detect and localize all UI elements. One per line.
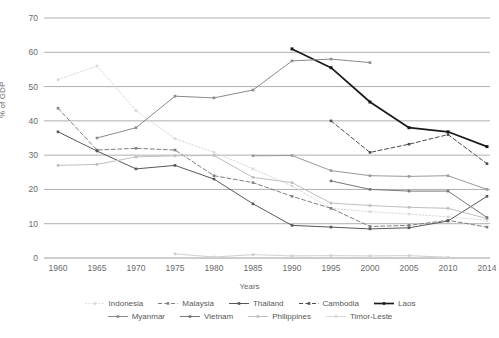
legend-label: Myanmar bbox=[132, 312, 165, 321]
data-point bbox=[486, 226, 489, 229]
x-axis-title: Years bbox=[0, 282, 499, 291]
legend-swatch-icon bbox=[107, 312, 129, 321]
legend-item-vietnam[interactable]: Vietnam bbox=[179, 312, 233, 321]
data-point bbox=[252, 155, 255, 158]
series-canvas bbox=[44, 18, 490, 258]
series-line bbox=[97, 59, 370, 138]
y-axis-tick-label: 10 bbox=[12, 220, 38, 229]
x-axis-tick-label: 2005 bbox=[389, 264, 429, 273]
data-point bbox=[174, 137, 177, 140]
series-myanmar-series bbox=[252, 154, 489, 191]
x-axis-tick-label: 1985 bbox=[233, 264, 273, 273]
data-point bbox=[369, 188, 372, 191]
data-point bbox=[486, 145, 489, 148]
data-point bbox=[447, 130, 450, 133]
series-line bbox=[58, 66, 487, 220]
data-point bbox=[369, 225, 372, 228]
data-point bbox=[447, 216, 450, 219]
x-axis-tick-label: 1995 bbox=[311, 264, 351, 273]
y-axis-tick-label: 0 bbox=[12, 254, 38, 263]
data-point bbox=[213, 174, 216, 177]
data-point bbox=[252, 181, 255, 184]
data-point bbox=[135, 126, 138, 129]
data-point bbox=[369, 61, 372, 64]
data-point bbox=[174, 149, 177, 152]
x-axis-tick-label: 2000 bbox=[350, 264, 390, 273]
legend-label: Cambodia bbox=[323, 299, 359, 308]
series-indonesia bbox=[57, 65, 489, 222]
data-point bbox=[447, 174, 450, 177]
series-line bbox=[58, 108, 487, 227]
legend-swatch-icon bbox=[228, 299, 250, 308]
data-point bbox=[408, 143, 411, 146]
data-point bbox=[252, 203, 255, 206]
series-malaysia bbox=[57, 107, 489, 229]
data-point bbox=[408, 190, 411, 193]
data-point bbox=[330, 207, 333, 210]
data-point bbox=[213, 256, 216, 259]
y-axis-title: % of GDP bbox=[0, 8, 7, 118]
data-point bbox=[135, 168, 138, 171]
legend-label: Thailand bbox=[253, 299, 284, 308]
series-laos bbox=[291, 47, 489, 148]
legend-item-myanmar[interactable]: Myanmar bbox=[107, 312, 165, 321]
data-point bbox=[486, 195, 489, 198]
data-point bbox=[408, 126, 411, 129]
data-point bbox=[57, 131, 60, 134]
data-point bbox=[330, 254, 333, 257]
data-point bbox=[96, 65, 99, 68]
data-point bbox=[252, 253, 255, 256]
data-point bbox=[174, 164, 177, 167]
data-point bbox=[369, 101, 372, 104]
data-point bbox=[447, 133, 450, 136]
data-point bbox=[213, 97, 216, 100]
legend-swatch-icon bbox=[373, 299, 395, 308]
data-point bbox=[291, 195, 294, 198]
x-axis-tick-label: 1965 bbox=[77, 264, 117, 273]
data-point bbox=[369, 204, 372, 207]
data-point bbox=[252, 168, 255, 171]
x-axis-tick-label: 1975 bbox=[155, 264, 195, 273]
legend-item-indonesia[interactable]: Indonesia bbox=[84, 299, 144, 308]
data-point bbox=[330, 226, 333, 229]
data-point bbox=[447, 220, 450, 223]
y-axis-tick-label: 40 bbox=[12, 117, 38, 126]
legend-item-laos[interactable]: Laos bbox=[373, 299, 415, 308]
x-axis-tick-label: 1970 bbox=[116, 264, 156, 273]
data-point bbox=[291, 181, 294, 184]
series-line bbox=[175, 254, 448, 257]
data-point bbox=[57, 164, 60, 167]
data-point bbox=[291, 47, 294, 50]
legend-swatch-icon bbox=[179, 312, 201, 321]
data-point bbox=[213, 178, 216, 181]
legend-item-philippines[interactable]: Philippines bbox=[247, 312, 311, 321]
y-axis-tick-label: 70 bbox=[12, 14, 38, 23]
data-point bbox=[291, 255, 294, 258]
chart-legend: IndonesiaMalaysiaThailandCambodiaLaosMya… bbox=[0, 297, 499, 323]
legend-label: Philippines bbox=[272, 312, 311, 321]
legend-swatch-icon bbox=[298, 299, 320, 308]
data-point bbox=[135, 109, 138, 112]
legend-item-cambodia[interactable]: Cambodia bbox=[298, 299, 359, 308]
data-point bbox=[135, 156, 138, 159]
legend-swatch-icon bbox=[84, 299, 106, 308]
y-axis-tick-label: 50 bbox=[12, 83, 38, 92]
data-point bbox=[213, 151, 216, 154]
data-point bbox=[447, 207, 450, 210]
data-point bbox=[252, 89, 255, 92]
legend-swatch-icon bbox=[325, 312, 347, 321]
data-point bbox=[96, 150, 99, 153]
data-point bbox=[96, 137, 99, 140]
series-vietnam bbox=[96, 58, 372, 140]
data-point bbox=[486, 162, 489, 165]
data-point bbox=[330, 202, 333, 205]
legend-item-thailand[interactable]: Thailand bbox=[228, 299, 284, 308]
data-point bbox=[408, 224, 411, 227]
data-point bbox=[135, 147, 138, 150]
x-axis-tick-label: 1990 bbox=[272, 264, 312, 273]
data-point bbox=[252, 176, 255, 179]
data-point bbox=[57, 78, 60, 81]
line-chart: % of GDP 010203040506070 196019651970197… bbox=[0, 0, 499, 338]
legend-item-malaysia[interactable]: Malaysia bbox=[157, 299, 214, 308]
legend-item-timor-leste[interactable]: Timor-Leste bbox=[325, 312, 392, 321]
